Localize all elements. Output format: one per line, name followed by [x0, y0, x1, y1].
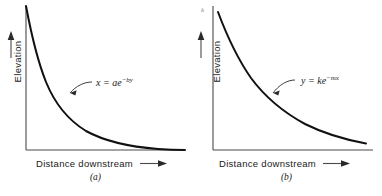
y-axis-intercept-text-b: k [201, 6, 204, 14]
y-axis-label-text-b: Elevation [211, 41, 222, 83]
x-axis-arrowhead-a [158, 160, 167, 167]
y-axis-arrowhead-b [198, 31, 205, 40]
y-axis-label-b: Elevation [211, 17, 222, 107]
equation-base-b: y = ke [301, 75, 326, 86]
leader-line-b [273, 80, 295, 93]
panel-caption-b: (b) [191, 172, 382, 182]
figure-container: Elevation Distance downstream x = ae−by … [0, 0, 382, 196]
x-axis-arrowhead-b [341, 160, 350, 167]
x-axis-label-b: Distance downstream [219, 158, 316, 169]
y-axis-label-a: Elevation [12, 17, 23, 107]
x-axis-label-text-b: Distance downstream [219, 158, 316, 169]
panel-caption-a: (a) [0, 172, 191, 182]
leader-line-a [70, 82, 92, 93]
decay-curve-b [218, 12, 366, 144]
panel-a: Elevation Distance downstream x = ae−by … [0, 0, 191, 196]
y-axis-intercept-mark-b: k [201, 6, 204, 14]
equation-exponent-a: −by [122, 76, 133, 84]
panel-caption-text-a: (a) [90, 172, 101, 182]
x-axis-label-a: Distance downstream [36, 158, 133, 169]
y-axis-label-text-a: Elevation [12, 41, 23, 83]
panel-caption-text-b: (b) [281, 172, 292, 182]
equation-exponent-b: −mx [326, 74, 339, 82]
x-axis-label-text-a: Distance downstream [36, 158, 133, 169]
equation-base-a: x = ae [96, 77, 122, 88]
panel-b: k Elevation Distance downstream y = ke−m… [191, 0, 382, 196]
equation-annotation-a: x = ae−by [96, 76, 133, 88]
equation-annotation-b: y = ke−mx [301, 74, 339, 86]
cropped-caption-strip [0, 190, 382, 196]
leader-arrowhead-a [70, 90, 77, 95]
